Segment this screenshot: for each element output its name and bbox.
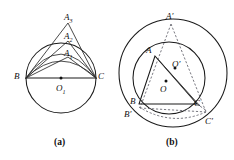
panel-b-label-c: C bbox=[194, 99, 200, 108]
panel-b-label-b: B bbox=[130, 97, 136, 106]
panel-b-label-o: O bbox=[160, 85, 167, 94]
panel-b-dashed-aprime-bprime bbox=[140, 24, 171, 108]
panel-a-label-a2: A2 bbox=[64, 32, 73, 43]
panel-a-caption: (a) bbox=[54, 138, 65, 148]
panel-b-caption: (b) bbox=[166, 138, 178, 148]
panel-a-label-a1: A1 bbox=[64, 49, 73, 60]
panel-a-label-c: C bbox=[98, 72, 104, 81]
geometry-figure: A3 A2 A1 B C O1 (a) A′ A O′ O B C B′ C′ … bbox=[0, 0, 234, 160]
panel-a-label-a1-sub: 1 bbox=[70, 54, 73, 60]
panel-b-label-o-prime: O′ bbox=[172, 60, 180, 69]
panel-b-outer-circle bbox=[119, 19, 227, 127]
panel-b-label-b-prime: B′ bbox=[124, 110, 131, 119]
panel-a-label-a3: A3 bbox=[64, 13, 73, 24]
panel-a-label-a3-sub: 3 bbox=[70, 18, 73, 24]
panel-b-graphics bbox=[0, 0, 234, 160]
panel-a-label-o1: O1 bbox=[56, 84, 66, 95]
panel-a-label-b: B bbox=[14, 72, 20, 81]
panel-b-center-dot-o bbox=[165, 80, 168, 83]
panel-b-dashed-bprime-cprime bbox=[140, 108, 206, 112]
panel-a-label-a2-sub: 2 bbox=[70, 37, 73, 43]
panel-b-label-a: A bbox=[146, 46, 152, 55]
panel-b-label-a-prime: A′ bbox=[166, 12, 173, 21]
panel-a-label-o1-sub: 1 bbox=[63, 89, 66, 95]
panel-b-triangle-abc bbox=[139, 56, 197, 104]
panel-b-label-c-prime: C′ bbox=[205, 117, 213, 126]
